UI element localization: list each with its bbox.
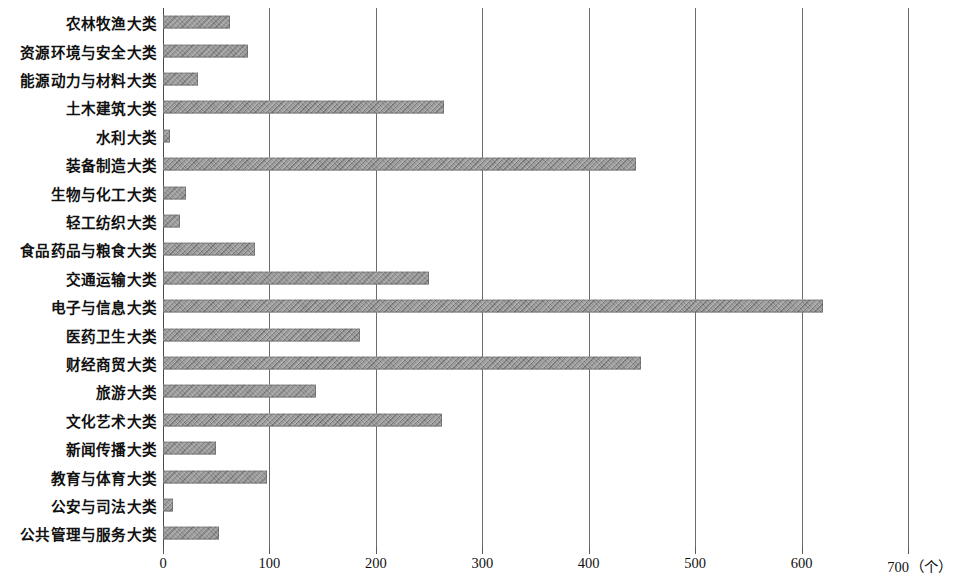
- category-label: 生物与化工大类: [51, 182, 157, 203]
- bar: [163, 413, 442, 426]
- category-label: 轻工纺织大类: [66, 210, 157, 231]
- x-axis: 0100200300400500600700（个）: [0, 547, 964, 574]
- x-tick-label: 700（个）: [887, 555, 952, 574]
- bar: [163, 214, 180, 227]
- bar-row: 公安与司法大类: [0, 491, 964, 519]
- bar-row: 财经商贸大类: [0, 349, 964, 377]
- x-tick: [589, 547, 590, 554]
- x-tick: [269, 547, 270, 554]
- category-label: 教育与体育大类: [51, 466, 157, 487]
- x-tick: [376, 547, 377, 554]
- bar: [163, 243, 255, 256]
- x-tick-value: 300: [471, 555, 493, 571]
- bar-row: 资源环境与安全大类: [0, 36, 964, 64]
- x-axis-unit-label: （个）: [910, 559, 952, 574]
- category-label: 水利大类: [96, 125, 157, 146]
- x-tick-label: 100: [259, 555, 281, 572]
- category-label: 电子与信息大类: [51, 296, 157, 317]
- category-label: 资源环境与安全大类: [20, 40, 157, 61]
- bar: [163, 470, 267, 483]
- bar-row: 装备制造大类: [0, 150, 964, 178]
- bar-row: 医药卫生大类: [0, 320, 964, 348]
- bar: [163, 356, 641, 369]
- bar: [163, 16, 230, 29]
- category-label: 医药卫生大类: [66, 324, 157, 345]
- category-label: 装备制造大类: [66, 154, 157, 175]
- category-label: 文化艺术大类: [66, 409, 157, 430]
- bar-row: 公共管理与服务大类: [0, 519, 964, 547]
- x-tick-value: 700: [887, 559, 909, 574]
- x-tick-label: 200: [365, 555, 387, 572]
- bar: [163, 44, 248, 57]
- bar-row: 文化艺术大类: [0, 406, 964, 434]
- bar-row: 轻工纺织大类: [0, 207, 964, 235]
- bar: [163, 158, 636, 171]
- bar: [163, 186, 186, 199]
- category-label: 食品药品与粮食大类: [20, 239, 157, 260]
- x-tick: [482, 547, 483, 554]
- x-tick-label: 400: [578, 555, 600, 572]
- x-tick-value: 200: [365, 555, 387, 571]
- bar-row: 农林牧渔大类: [0, 8, 964, 36]
- x-tick-label: 500: [684, 555, 706, 572]
- bar-row: 教育与体育大类: [0, 462, 964, 490]
- bar: [163, 328, 360, 341]
- x-tick-label: 600: [791, 555, 813, 572]
- x-tick-label: 300: [471, 555, 493, 572]
- bar: [163, 101, 444, 114]
- bar: [163, 498, 173, 511]
- bar-rows: 农林牧渔大类资源环境与安全大类能源动力与材料大类土木建筑大类水利大类装备制造大类…: [0, 0, 964, 547]
- category-label: 土木建筑大类: [66, 97, 157, 118]
- bar: [163, 72, 198, 85]
- x-tick-value: 600: [791, 555, 813, 571]
- category-label: 财经商贸大类: [66, 352, 157, 373]
- bar: [163, 442, 216, 455]
- bar-row: 电子与信息大类: [0, 292, 964, 320]
- x-tick-value: 400: [578, 555, 600, 571]
- x-tick: [802, 547, 803, 554]
- x-tick-value: 0: [159, 555, 166, 571]
- x-tick: [695, 547, 696, 554]
- category-label: 交通运输大类: [66, 267, 157, 288]
- category-label: 公安与司法大类: [51, 494, 157, 515]
- bar-row: 旅游大类: [0, 377, 964, 405]
- bar-row: 生物与化工大类: [0, 178, 964, 206]
- bar: [163, 385, 316, 398]
- x-tick-value: 100: [259, 555, 281, 571]
- x-tick-label: 0: [159, 555, 166, 572]
- x-tick: [908, 547, 909, 554]
- bar-row: 食品药品与粮食大类: [0, 235, 964, 263]
- category-label: 公共管理与服务大类: [20, 523, 157, 544]
- bar: [163, 527, 219, 540]
- bar-row: 交通运输大类: [0, 264, 964, 292]
- category-label: 旅游大类: [96, 381, 157, 402]
- bar-row: 能源动力与材料大类: [0, 65, 964, 93]
- bar-row: 新闻传播大类: [0, 434, 964, 462]
- bar: [163, 129, 170, 142]
- bar: [163, 271, 429, 284]
- category-label: 能源动力与材料大类: [20, 68, 157, 89]
- category-label: 农林牧渔大类: [66, 12, 157, 33]
- bar-row: 水利大类: [0, 122, 964, 150]
- x-tick-value: 500: [684, 555, 706, 571]
- bar-chart: 农林牧渔大类资源环境与安全大类能源动力与材料大类土木建筑大类水利大类装备制造大类…: [0, 0, 964, 574]
- bar-row: 土木建筑大类: [0, 93, 964, 121]
- bar: [163, 300, 823, 313]
- x-tick: [163, 547, 164, 554]
- category-label: 新闻传播大类: [66, 438, 157, 459]
